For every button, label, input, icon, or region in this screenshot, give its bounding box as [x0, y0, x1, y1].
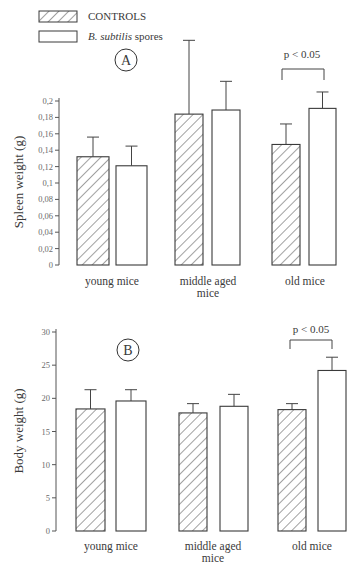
y-tick-label: 0,04 [38, 227, 54, 237]
bar-spores [116, 166, 147, 265]
y-tick-label: 0,14 [38, 145, 54, 155]
legend-label-controls: CONTROLS [88, 10, 146, 22]
bar-controls [278, 410, 306, 531]
figure: CONTROLS B. subtilis spores A B p < 0.05… [0, 0, 359, 572]
y-axis-label-a: Spleen weight (g) [11, 136, 26, 228]
y-tick-label: 20 [42, 393, 51, 403]
y-tick-label: 15 [42, 427, 51, 437]
y-tick-label: 0,02 [38, 244, 53, 254]
panel-a-marker: A [115, 49, 137, 71]
y-tick-label: 0,12 [38, 162, 53, 172]
p-value-label-a: p < 0.05 [284, 48, 321, 60]
bar-controls [175, 114, 203, 265]
x-category-label: old mice [292, 540, 332, 552]
panel-b-letter: B [123, 343, 132, 358]
x-category-label: young mice [85, 275, 139, 288]
chart-spleen-weight: Spleen weight (g) 00,020,040,060,080,10,… [11, 40, 336, 299]
legend-swatch-controls [39, 11, 77, 22]
legend-swatch-spores [39, 31, 77, 42]
significance-bracket-b: p < 0.05 [290, 323, 332, 349]
x-axis-labels-b: young micemiddle agedmiceold mice [84, 540, 332, 564]
x-category-label: mice [202, 552, 224, 564]
y-tick-label: 25 [42, 360, 51, 370]
y-tick-label: 0,1 [42, 178, 53, 188]
bar-controls [77, 157, 109, 265]
bar-controls [179, 413, 207, 531]
bars-b [76, 357, 346, 531]
y-tick-label: 0,2 [42, 96, 53, 106]
x-category-label: young mice [84, 540, 138, 553]
y-axis-a: 00,020,040,060,080,10,120,140,160,180,2 [38, 96, 59, 270]
chart-body-weight: Body weight (g) 051015202530 young micem… [11, 327, 346, 564]
x-axis-labels-a: young micemiddle agedmiceold mice [85, 275, 325, 299]
bar-spores [309, 108, 336, 265]
y-axis-label-b: Body weight (g) [11, 388, 26, 473]
y-tick-label: 5 [46, 493, 50, 503]
y-tick-label: 0,16 [38, 129, 53, 139]
bar-spores [318, 370, 346, 531]
p-value-label-b: p < 0.05 [293, 323, 330, 335]
legend: CONTROLS B. subtilis spores [39, 10, 163, 42]
y-tick-label: 30 [42, 327, 51, 337]
y-tick-label: 0,18 [38, 112, 53, 122]
panel-b-marker: B [117, 339, 139, 361]
bar-controls [76, 409, 105, 531]
y-tick-label: 0 [49, 260, 53, 270]
bar-spores [116, 401, 146, 531]
bar-spores [212, 110, 240, 265]
y-tick-label: 0,06 [38, 211, 53, 221]
legend-label-spores: B. subtilis spores [88, 30, 163, 42]
bar-controls [272, 144, 300, 265]
y-tick-label: 10 [42, 460, 51, 470]
x-category-label: mice [197, 287, 219, 299]
x-category-label: old mice [285, 275, 325, 287]
bars-a [77, 40, 336, 265]
y-axis-b: 051015202530 [42, 327, 57, 536]
significance-bracket-a: p < 0.05 [282, 48, 324, 80]
y-tick-label: 0,08 [38, 194, 53, 204]
y-tick-label: 0 [46, 526, 50, 536]
panel-a-letter: A [121, 53, 132, 68]
bar-spores [220, 406, 248, 531]
